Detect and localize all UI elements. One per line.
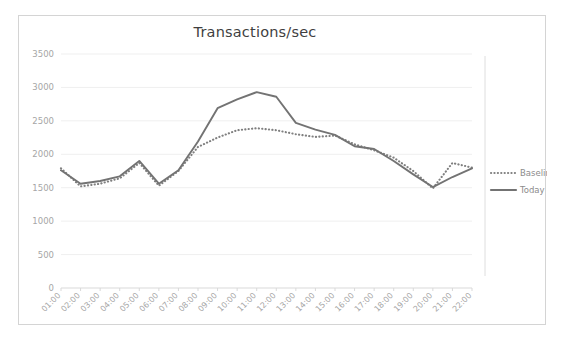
y-axis-tick-label: 2000 bbox=[32, 149, 54, 159]
x-axis-tick-label: 08:00 bbox=[177, 291, 200, 314]
x-axis-tick-label: 05:00 bbox=[118, 291, 141, 314]
x-axis-tick-label: 12:00 bbox=[255, 291, 278, 314]
x-axis-tick-label: 18:00 bbox=[372, 291, 395, 314]
x-axis-tick-label: 01:00 bbox=[40, 291, 63, 314]
x-axis-tick-label: 09:00 bbox=[196, 291, 219, 314]
legend-label-baseline[interactable]: Baseline bbox=[520, 168, 547, 178]
y-axis-tick-label: 3500 bbox=[32, 49, 54, 59]
y-axis-tick-label: 500 bbox=[38, 250, 54, 260]
x-axis-tick-label: 03:00 bbox=[79, 291, 102, 314]
x-axis-tick-label: 10:00 bbox=[216, 291, 239, 314]
x-axis-tick-label: 19:00 bbox=[392, 291, 415, 314]
x-axis-tick-labels: 01:0002:0003:0004:0005:0006:0007:0008:00… bbox=[40, 288, 474, 314]
x-axis-tick-label: 13:00 bbox=[275, 291, 298, 314]
x-axis-tick-label: 06:00 bbox=[138, 291, 161, 314]
x-axis-tick-label: 07:00 bbox=[157, 291, 180, 314]
y-axis-tick-labels: 0500100015002000250030003500 bbox=[32, 49, 54, 293]
x-axis-tick-label: 21:00 bbox=[431, 291, 454, 314]
x-axis-tick-label: 02:00 bbox=[59, 291, 82, 314]
series-line-today bbox=[61, 92, 472, 187]
y-axis-tick-label: 1500 bbox=[32, 183, 54, 193]
y-axis-tick-label: 1000 bbox=[32, 216, 54, 226]
x-axis-tick-label: 22:00 bbox=[451, 291, 474, 314]
chart-legend: BaselineToday bbox=[485, 56, 547, 276]
x-axis-tick-label: 15:00 bbox=[314, 291, 337, 314]
x-axis-tick-label: 17:00 bbox=[353, 291, 376, 314]
gridlines-group bbox=[61, 54, 472, 255]
legend-label-today[interactable]: Today bbox=[519, 185, 545, 195]
x-axis-tick-label: 11:00 bbox=[235, 291, 258, 314]
y-axis-tick-label: 0 bbox=[49, 283, 54, 293]
y-axis-tick-label: 2500 bbox=[32, 116, 54, 126]
chart-container: Transactions/sec 05001000150020002500300… bbox=[18, 15, 546, 325]
y-axis-tick-label: 3000 bbox=[32, 82, 54, 92]
x-axis-tick-label: 20:00 bbox=[412, 291, 435, 314]
x-axis-tick-label: 16:00 bbox=[333, 291, 356, 314]
x-axis-tick-label: 14:00 bbox=[294, 291, 317, 314]
series-line-baseline bbox=[61, 128, 472, 188]
x-axis-tick-label: 04:00 bbox=[98, 291, 121, 314]
data-series-group bbox=[61, 92, 472, 188]
chart-plot-area: 0500100015002000250030003500 01:0002:000… bbox=[19, 16, 547, 326]
